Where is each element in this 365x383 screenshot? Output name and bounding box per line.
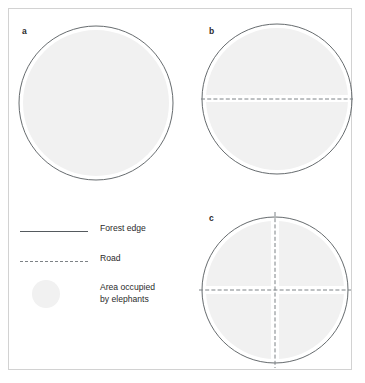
legend-swatch-forest-edge: [18, 222, 90, 244]
figure-canvas: [0, 0, 365, 383]
legend-label-forest-edge: Forest edge: [100, 223, 146, 235]
solid-line-icon: [20, 231, 88, 232]
legend-swatch-area-occupied: [18, 280, 90, 302]
gray-circle-icon: [32, 280, 60, 308]
panel-b: [201, 24, 353, 174]
legend-label-road: Road: [100, 253, 121, 265]
panel-label-a: a: [22, 27, 27, 36]
legend-item-road: Road: [18, 252, 188, 274]
panel-c: [199, 212, 351, 368]
panel-a: [19, 26, 173, 180]
panel-label-b: b: [209, 27, 214, 36]
dashed-line-icon: [20, 261, 88, 262]
legend-item-area-occupied: Area occupied by elephants: [18, 280, 188, 320]
panel-a-elephant-area: [23, 30, 169, 176]
legend-item-forest-edge: Forest edge: [18, 222, 188, 244]
figure-root: a b c Forest edge Road Area occupied by …: [0, 0, 365, 383]
legend-label-area-occupied: Area occupied by elephants: [100, 282, 155, 305]
legend-swatch-road: [18, 252, 90, 274]
panel-label-c: c: [209, 214, 214, 223]
